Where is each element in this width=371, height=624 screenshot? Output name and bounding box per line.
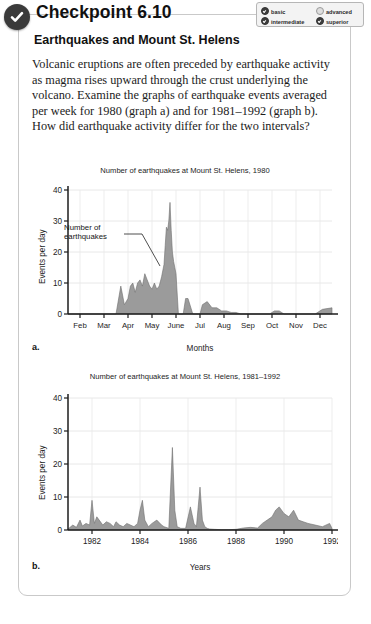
svg-text:Jul: Jul <box>195 321 205 330</box>
level-legend: basic intermediate advanced superior <box>256 2 364 27</box>
check-dot-superior <box>316 17 324 25</box>
svg-text:Oct: Oct <box>266 321 279 330</box>
annotation-line-1: Number of <box>64 223 100 232</box>
chart-a: Number of earthquakes at Mount St. Helen… <box>32 166 338 356</box>
check-dot-advanced <box>316 7 324 15</box>
svg-text:1982: 1982 <box>83 537 102 546</box>
svg-text:Aug: Aug <box>217 321 231 330</box>
card-header: Checkpoint 6.10 basic intermediate advan… <box>0 0 371 34</box>
chart-b-title: Number of earthquakes at Mount St. Helen… <box>32 372 338 381</box>
check-dot-basic <box>261 7 269 15</box>
chart-a-plot: 010203040FebMarAprMayJuneJulAugSepOctNov… <box>32 180 338 340</box>
svg-text:Apr: Apr <box>122 321 135 330</box>
check-circle-icon <box>4 4 30 30</box>
svg-text:1990: 1990 <box>275 537 294 546</box>
svg-text:0: 0 <box>57 526 62 535</box>
level-label-superior: superior <box>326 19 348 25</box>
chart-b-panel-letter: b. <box>32 561 40 571</box>
page-title: Checkpoint 6.10 <box>36 2 172 23</box>
svg-text:30: 30 <box>53 427 63 436</box>
svg-text:Nov: Nov <box>289 321 303 330</box>
svg-text:10: 10 <box>53 279 63 288</box>
svg-text:30: 30 <box>53 217 63 226</box>
check-dot-intermediate <box>261 17 269 25</box>
svg-text:10: 10 <box>53 493 63 502</box>
level-item-superior[interactable]: superior <box>316 17 348 26</box>
svg-text:Dec: Dec <box>313 321 327 330</box>
page-root: Checkpoint 6.10 basic intermediate advan… <box>0 0 371 624</box>
svg-text:Sep: Sep <box>241 321 256 330</box>
level-label-intermediate: intermediate <box>271 19 304 25</box>
section-subtitle: Earthquakes and Mount St. Helens <box>34 33 240 47</box>
chart-b: Number of earthquakes at Mount St. Helen… <box>32 372 338 572</box>
level-item-advanced[interactable]: advanced <box>316 7 352 16</box>
chart-a-annotation: Number of earthquakes <box>64 223 107 242</box>
svg-text:1986: 1986 <box>179 537 198 546</box>
svg-text:40: 40 <box>53 186 63 195</box>
chart-b-xlabel: Years <box>62 563 338 572</box>
svg-text:40: 40 <box>53 394 63 403</box>
svg-text:May: May <box>145 321 160 330</box>
chart-b-plot: 010203040198219841986198819901992 <box>32 388 338 558</box>
svg-text:20: 20 <box>53 460 63 469</box>
svg-text:Feb: Feb <box>73 321 87 330</box>
svg-text:1984: 1984 <box>131 537 150 546</box>
svg-text:1992: 1992 <box>323 537 338 546</box>
chart-a-panel-letter: a. <box>32 342 40 352</box>
annotation-line-2: earthquakes <box>64 232 107 241</box>
chart-a-xlabel: Months <box>62 344 338 353</box>
level-item-basic[interactable]: basic <box>261 7 285 16</box>
svg-text:June: June <box>168 321 185 330</box>
svg-text:20: 20 <box>53 248 63 257</box>
svg-text:0: 0 <box>57 310 62 319</box>
svg-text:1988: 1988 <box>227 537 246 546</box>
body-paragraph: Volcanic eruptions are often preceded by… <box>32 57 332 135</box>
level-label-advanced: advanced <box>326 9 352 15</box>
level-item-intermediate[interactable]: intermediate <box>261 17 304 26</box>
svg-text:Mar: Mar <box>97 321 111 330</box>
chart-a-title: Number of earthquakes at Mount St. Helen… <box>32 166 338 175</box>
level-label-basic: basic <box>271 9 285 15</box>
